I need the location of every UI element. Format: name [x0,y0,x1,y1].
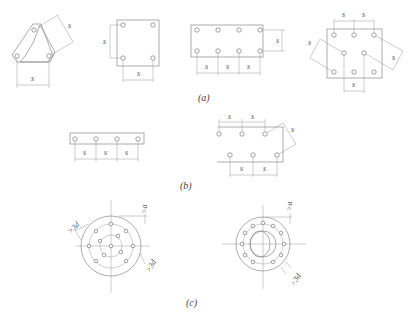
spacing-label: s [103,37,106,46]
spacing-label: s [226,62,229,71]
clearance-label: >3d [144,257,159,274]
bolt-hole [279,231,283,235]
bolt-hole [372,33,376,37]
spacing-label: s [31,74,34,83]
bolt-hole [151,56,155,60]
clearance-label: >3d [66,219,83,236]
spacing-label: s [362,10,365,19]
bolt-hole [258,28,262,32]
bolt-hole [352,33,356,37]
bolt-hole [362,51,366,55]
bolt-hole [282,242,286,246]
bolt-hole [131,244,135,248]
bolt-hole [119,250,123,254]
panel-a2-square-plate: s s [103,20,159,82]
panel-a4-staggered-plate: s s s s s [308,10,403,93]
bolt-hole [237,49,241,53]
spacing-label: s [247,62,250,71]
bolt-hole [94,259,98,263]
bolt-arrangement-diagram: s s s s s [0,0,416,314]
bolt-hole [115,137,119,141]
bolt-hole [73,137,77,141]
bolt-hole [94,229,98,233]
spacing-label: s [291,125,294,134]
bolt-hole [237,28,241,32]
spacing-label: s [137,69,140,78]
bolt-hole [243,231,247,235]
spacing-label: s [392,53,395,62]
panel-c1-flange-two-rings: >a >3d >3d [66,200,159,293]
bolt-hole [47,54,51,58]
spacing-label: s [205,62,208,71]
panel-b1-single-row: s s s [70,133,144,162]
bolt-hole [258,49,262,53]
bolt-hole [240,242,244,246]
bolt-hole [240,132,244,136]
spacing-label: s [240,164,243,173]
bolt-hole [87,244,91,248]
spacing-label: s [276,36,279,45]
bolt-hole [116,234,120,238]
spacing-label: s [352,80,355,89]
bolt-hole [195,28,199,32]
bolt-hole [275,153,279,157]
bolt-hole [121,56,125,60]
spacing-label: s [83,148,86,157]
bolt-hole [261,221,265,225]
bolt-hole [228,153,232,157]
bolt-hole [217,132,221,136]
spacing-label: s [263,164,266,173]
bolt-hole [342,51,346,55]
bolt-hole [332,70,336,74]
spacing-label: s [308,38,311,47]
bolt-hole [251,260,255,264]
bolt-hole [243,253,247,257]
bolt-hole [279,253,283,257]
caption-c: (c) [186,297,198,309]
bolt-hole [195,49,199,53]
bolt-hole [216,28,220,32]
clearance-label: >3d [288,271,304,288]
bolt-hole [251,153,255,157]
caption-a: (a) [198,92,210,104]
edge-distance-label: >a [140,205,149,214]
spacing-label: s [68,21,71,30]
bolt-hole [372,70,376,74]
caption-b: (b) [180,180,192,192]
panel-a1-triangle-plate: s s [12,15,73,88]
bolt-hole [15,54,19,58]
bolt-hole [109,244,113,248]
bolt-hole [332,33,336,37]
panel-b2-staggered-rows: s s s s s [217,112,296,177]
edge-distance-label: >a [285,202,294,211]
bolt-hole [251,224,255,228]
bolt-hole [124,259,128,263]
bolt-hole [271,260,275,264]
bolt-hole [151,23,155,27]
bolt-hole [121,23,125,27]
bolt-hole [271,224,275,228]
bolt-hole [124,229,128,233]
spacing-label: s [342,10,345,19]
spacing-label: s [125,148,128,157]
panel-c2-flange-single-ring: >a >3d [222,202,306,289]
bolt-hole [102,253,106,257]
bolt-hole [216,49,220,53]
bolt-hole [136,137,140,141]
bolt-hole [352,70,356,74]
bolt-hole [32,28,36,32]
bolt-hole [98,239,102,243]
spacing-label: s [104,148,107,157]
panel-a3-rectangular-plate: s s s s [191,25,285,75]
spacing-label: s [251,112,254,121]
spacing-label: s [228,112,231,121]
bolt-hole [109,222,113,226]
bolt-hole [263,132,267,136]
bolt-hole [94,137,98,141]
